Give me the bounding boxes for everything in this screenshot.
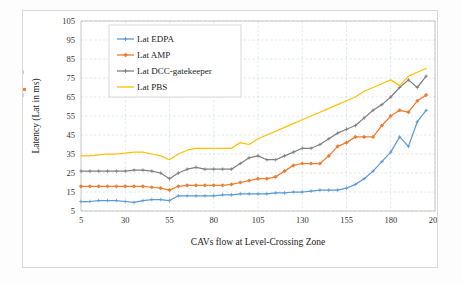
legend-label-0: Lat EDPA xyxy=(137,34,174,44)
svg-text:65: 65 xyxy=(67,92,76,102)
svg-text:5: 5 xyxy=(79,215,83,225)
svg-text:30: 30 xyxy=(121,215,130,225)
svg-text:45: 45 xyxy=(67,130,76,140)
svg-text:55: 55 xyxy=(67,111,76,121)
x-axis-title: CAVs flow at Level-Crossing Zone xyxy=(191,237,325,247)
legend-label-3: Lat PBS xyxy=(137,82,167,92)
svg-text:35: 35 xyxy=(67,149,76,159)
svg-text:25: 25 xyxy=(67,168,76,178)
svg-text:130: 130 xyxy=(296,215,309,225)
y-axis-title: Latency (Lat in ms) xyxy=(31,78,42,153)
y-axis-tick-labels: 5152535455565758595105 xyxy=(62,16,75,216)
svg-text:180: 180 xyxy=(384,215,397,225)
svg-text:105: 105 xyxy=(62,16,75,26)
svg-text:5: 5 xyxy=(71,206,75,216)
x-axis-tick-labels: 5305580105130155180205 xyxy=(79,215,437,225)
svg-text:205: 205 xyxy=(429,215,437,225)
svg-text:155: 155 xyxy=(340,215,353,225)
svg-text:55: 55 xyxy=(165,215,174,225)
svg-text:75: 75 xyxy=(67,73,76,83)
chart-legend: Lat EDPALat AMPLat DCC-gatekeeperLat PBS xyxy=(109,25,241,97)
latency-line-chart: 5152535455565758595105 53055801051301551… xyxy=(23,11,437,267)
legend-label-2: Lat DCC-gatekeeper xyxy=(137,66,212,76)
svg-text:95: 95 xyxy=(67,35,76,45)
chart-frame: 5152535455565758595105 53055801051301551… xyxy=(22,10,438,268)
legend-label-1: Lat AMP xyxy=(137,50,170,60)
svg-text:85: 85 xyxy=(67,54,76,64)
svg-text:15: 15 xyxy=(67,187,76,197)
svg-text:105: 105 xyxy=(252,215,265,225)
legend-box xyxy=(109,25,241,97)
svg-text:80: 80 xyxy=(210,215,219,225)
chart-figure: 5152535455565758595105 53055801051301551… xyxy=(0,0,462,283)
